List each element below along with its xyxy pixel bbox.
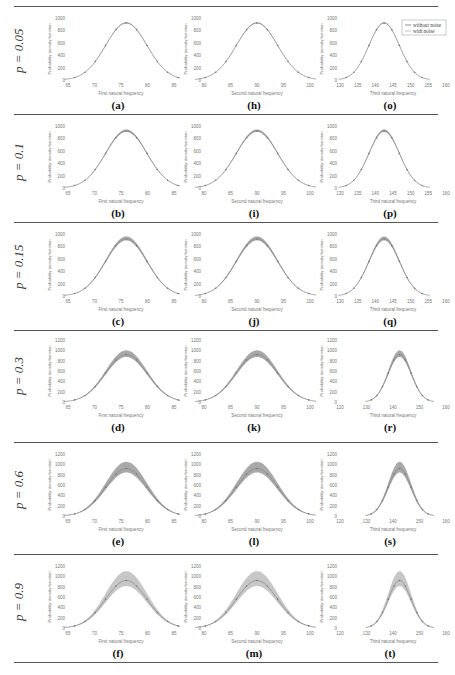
panel-caption: (e) xyxy=(48,535,188,547)
panel-caption: (o) xyxy=(320,99,455,111)
svg-text:800: 800 xyxy=(57,136,65,141)
svg-text:1000: 1000 xyxy=(191,124,202,129)
svg-text:155: 155 xyxy=(425,83,433,88)
svg-text:80: 80 xyxy=(201,631,207,636)
svg-text:with noise: with noise xyxy=(413,28,435,34)
panel-caption: (b) xyxy=(48,207,188,219)
svg-text:200: 200 xyxy=(329,66,337,71)
svg-text:400: 400 xyxy=(57,269,65,274)
svg-text:600: 600 xyxy=(193,257,201,262)
pdf-plot-j: 0200400600800100080859095100Second natur… xyxy=(176,228,316,336)
svg-text:First natural frequency: First natural frequency xyxy=(99,307,145,312)
svg-text:70: 70 xyxy=(92,299,98,304)
svg-text:1000: 1000 xyxy=(327,16,338,21)
svg-text:600: 600 xyxy=(57,483,65,488)
panel-caption: (f) xyxy=(48,647,188,659)
pdf-plot-c: 020040060080010006570758085First natural… xyxy=(40,228,180,336)
panel-caption: (r) xyxy=(320,421,455,433)
svg-text:800: 800 xyxy=(193,28,201,33)
svg-text:800: 800 xyxy=(329,136,337,141)
svg-text:1000: 1000 xyxy=(55,348,66,353)
svg-text:600: 600 xyxy=(193,483,201,488)
svg-text:130: 130 xyxy=(363,405,371,410)
svg-text:75: 75 xyxy=(118,631,124,636)
svg-text:First natural frequency: First natural frequency xyxy=(99,91,145,96)
svg-text:Probability density function: Probability density function xyxy=(319,239,324,291)
svg-text:1000: 1000 xyxy=(55,232,66,237)
svg-text:600: 600 xyxy=(193,149,201,154)
panel-caption: (q) xyxy=(320,315,455,327)
svg-text:800: 800 xyxy=(57,244,65,249)
svg-text:80: 80 xyxy=(145,83,151,88)
svg-text:130: 130 xyxy=(363,519,371,524)
svg-text:600: 600 xyxy=(329,149,337,154)
svg-text:90: 90 xyxy=(254,83,260,88)
svg-text:1000: 1000 xyxy=(327,348,338,353)
svg-text:Second natural frequency: Second natural frequency xyxy=(231,639,283,644)
pdf-plot-k: 02004006008001000120080859095100Second n… xyxy=(176,334,316,442)
noise-level-label: p = 0.9 xyxy=(11,591,27,621)
panel-caption: (s) xyxy=(320,535,455,547)
svg-text:Probability density function: Probability density function xyxy=(47,459,52,511)
svg-text:135: 135 xyxy=(354,299,362,304)
noise-level-label: p = 0.1 xyxy=(11,151,27,181)
svg-text:150: 150 xyxy=(416,519,424,524)
svg-text:150: 150 xyxy=(416,405,424,410)
svg-text:75: 75 xyxy=(118,191,124,196)
svg-text:75: 75 xyxy=(118,519,124,524)
panel-caption: (l) xyxy=(184,535,324,547)
svg-text:400: 400 xyxy=(193,493,201,498)
svg-text:200: 200 xyxy=(329,504,337,509)
svg-text:1000: 1000 xyxy=(327,462,338,467)
svg-text:1000: 1000 xyxy=(327,574,338,579)
svg-text:200: 200 xyxy=(329,616,337,621)
svg-text:400: 400 xyxy=(57,53,65,58)
svg-text:Third natural frequency: Third natural frequency xyxy=(370,413,417,418)
noise-level-label: p = 0.3 xyxy=(11,365,27,395)
svg-text:155: 155 xyxy=(425,191,433,196)
svg-text:1000: 1000 xyxy=(327,232,338,237)
svg-text:135: 135 xyxy=(354,191,362,196)
svg-text:70: 70 xyxy=(92,83,98,88)
svg-text:200: 200 xyxy=(193,616,201,621)
svg-text:Probability density function: Probability density function xyxy=(47,571,52,623)
svg-text:600: 600 xyxy=(57,149,65,154)
svg-text:160: 160 xyxy=(442,299,450,304)
svg-text:800: 800 xyxy=(193,244,201,249)
svg-text:65: 65 xyxy=(65,83,71,88)
panel-caption: (c) xyxy=(48,315,188,327)
svg-text:800: 800 xyxy=(329,585,337,590)
svg-text:1200: 1200 xyxy=(191,564,202,569)
svg-text:Third natural frequency: Third natural frequency xyxy=(370,307,417,312)
svg-text:140: 140 xyxy=(389,631,397,636)
svg-text:80: 80 xyxy=(145,405,151,410)
svg-text:400: 400 xyxy=(57,379,65,384)
svg-text:70: 70 xyxy=(92,519,98,524)
svg-text:600: 600 xyxy=(329,483,337,488)
svg-text:95: 95 xyxy=(281,191,287,196)
svg-text:400: 400 xyxy=(329,53,337,58)
svg-text:400: 400 xyxy=(193,379,201,384)
svg-text:1200: 1200 xyxy=(55,452,66,457)
svg-text:65: 65 xyxy=(65,631,71,636)
svg-text:130: 130 xyxy=(363,631,371,636)
svg-text:145: 145 xyxy=(389,299,397,304)
svg-text:800: 800 xyxy=(57,28,65,33)
svg-text:95: 95 xyxy=(281,83,287,88)
svg-text:600: 600 xyxy=(329,595,337,600)
svg-text:150: 150 xyxy=(407,191,415,196)
svg-text:600: 600 xyxy=(193,41,201,46)
svg-text:First natural frequency: First natural frequency xyxy=(99,413,145,418)
row-divider xyxy=(14,442,438,443)
svg-text:800: 800 xyxy=(329,359,337,364)
svg-text:80: 80 xyxy=(201,519,207,524)
svg-text:120: 120 xyxy=(336,631,344,636)
svg-text:160: 160 xyxy=(442,405,450,410)
svg-text:65: 65 xyxy=(65,405,71,410)
svg-text:80: 80 xyxy=(201,405,207,410)
svg-text:200: 200 xyxy=(329,390,337,395)
pdf-plot-s: 020040060080010001200120130140150160Thir… xyxy=(312,448,452,556)
svg-text:Probability density function: Probability density function xyxy=(47,345,52,397)
pdf-plot-a: 020040060080010006570758085First natural… xyxy=(40,12,180,120)
svg-text:800: 800 xyxy=(329,28,337,33)
